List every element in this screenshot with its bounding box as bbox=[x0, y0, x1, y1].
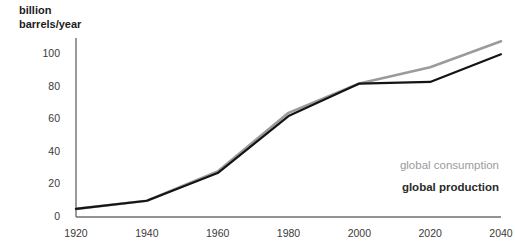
x-tick-label: 1980 bbox=[266, 227, 312, 239]
y-tick-label: 100 bbox=[26, 47, 60, 59]
x-tick-label: 1960 bbox=[195, 227, 241, 239]
y-tick-label: 0 bbox=[26, 210, 60, 222]
x-tick-label: 1940 bbox=[124, 227, 170, 239]
y-tick-label: 40 bbox=[26, 145, 60, 157]
y-tick-label: 60 bbox=[26, 112, 60, 124]
x-tick-label: 2000 bbox=[336, 227, 382, 239]
x-tick-label: 1920 bbox=[53, 227, 99, 239]
line-chart: billionbarrels/year 020406080100 1920194… bbox=[0, 0, 515, 248]
legend-item-global-production: global production bbox=[402, 181, 499, 193]
plot-area bbox=[0, 0, 515, 248]
y-tick-label: 20 bbox=[26, 177, 60, 189]
y-tick-label: 80 bbox=[26, 80, 60, 92]
x-tick-label: 2040 bbox=[478, 227, 515, 239]
x-tick-label: 2020 bbox=[407, 227, 453, 239]
legend-item-global-consumption: global consumption bbox=[400, 159, 499, 171]
